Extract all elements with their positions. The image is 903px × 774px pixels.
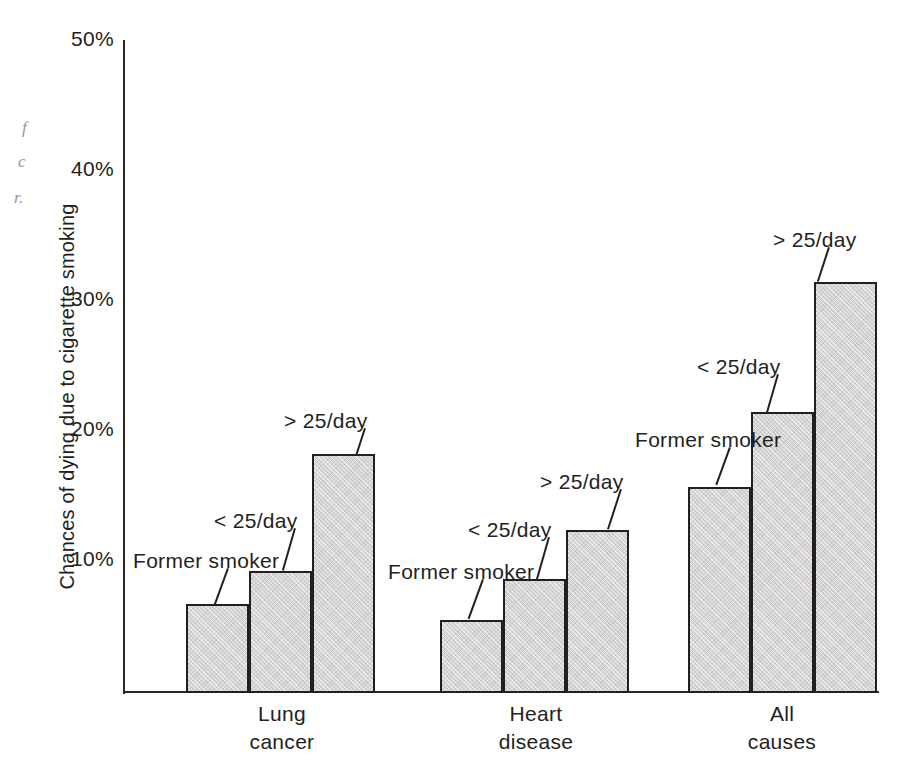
margin-caption-fragment: f xyxy=(22,118,27,138)
bar xyxy=(751,412,814,694)
bar xyxy=(249,571,312,693)
annotation-leader-line xyxy=(607,489,621,529)
bar-annotation-label: Former smoker xyxy=(635,428,781,452)
bar-annotation-label: < 25/day xyxy=(468,518,552,542)
bar xyxy=(186,604,249,693)
y-axis-line xyxy=(123,40,125,694)
x-axis-category-label-line: Heart xyxy=(436,700,636,728)
margin-caption-fragment: c xyxy=(18,152,26,172)
x-axis-category-label-line: cancer xyxy=(182,728,382,756)
y-axis-tick-label: 10% xyxy=(71,547,114,571)
bar-annotation-label: Former smoker xyxy=(133,549,279,573)
y-axis-tick-label: 30% xyxy=(71,287,114,311)
y-axis-tick-label: 20% xyxy=(71,417,114,441)
annotation-leader-line xyxy=(536,537,550,580)
annotation-leader-line xyxy=(468,579,484,619)
bar xyxy=(814,282,877,694)
annotation-leader-line xyxy=(766,374,779,413)
x-axis-category-label-line: All xyxy=(682,700,882,728)
y-axis-tick-label: 40% xyxy=(71,157,114,181)
bar-annotation-label: < 25/day xyxy=(214,509,298,533)
x-axis-category-label: Allcauses xyxy=(682,700,882,755)
y-axis-tick-label: 50% xyxy=(71,27,114,51)
y-axis-title: Chances of dying due to cigarette smokin… xyxy=(56,147,79,647)
bar xyxy=(503,579,566,693)
x-axis-category-label-line: Lung xyxy=(182,700,382,728)
bar-annotation-label: < 25/day xyxy=(697,355,781,379)
bar-annotation-label: > 25/day xyxy=(284,409,368,433)
x-axis-category-label: Heartdisease xyxy=(436,700,636,755)
margin-caption-fragment: r. xyxy=(14,188,23,208)
annotation-leader-line xyxy=(715,447,730,485)
bar xyxy=(440,620,503,694)
annotation-leader-line xyxy=(817,247,830,282)
bar-annotation-label: > 25/day xyxy=(540,470,624,494)
bar-annotation-label: Former smoker xyxy=(388,560,534,584)
annotation-leader-line xyxy=(282,528,296,571)
annotation-leader-line xyxy=(213,568,228,606)
bar xyxy=(688,487,751,693)
x-axis-category-label-line: disease xyxy=(436,728,636,756)
x-axis-category-label: Lungcancer xyxy=(182,700,382,755)
bar-chart-figure: fcr. Chances of dying due to cigarette s… xyxy=(0,0,903,774)
bar xyxy=(312,454,375,693)
bar-annotation-label: > 25/day xyxy=(773,228,857,252)
x-axis-category-label-line: causes xyxy=(682,728,882,756)
bar xyxy=(566,530,629,693)
